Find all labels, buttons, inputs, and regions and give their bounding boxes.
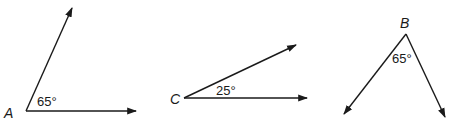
- angle-c: C 25°: [170, 45, 307, 107]
- angle-measure-b: 65°: [392, 51, 412, 66]
- angle-measure-a: 65°: [37, 94, 57, 109]
- angle-a: A 65°: [3, 8, 136, 121]
- vertex-label-a: A: [3, 105, 13, 121]
- ray-b-right: [406, 34, 445, 117]
- angles-diagram: A 65° C 25° B 65°: [0, 0, 460, 123]
- vertex-label-b: B: [400, 15, 409, 31]
- angle-b: B 65°: [344, 15, 445, 117]
- ray-c-upper: [184, 45, 296, 98]
- ray-b-left: [344, 34, 406, 114]
- vertex-label-c: C: [170, 91, 181, 107]
- angle-measure-c: 25°: [216, 83, 236, 98]
